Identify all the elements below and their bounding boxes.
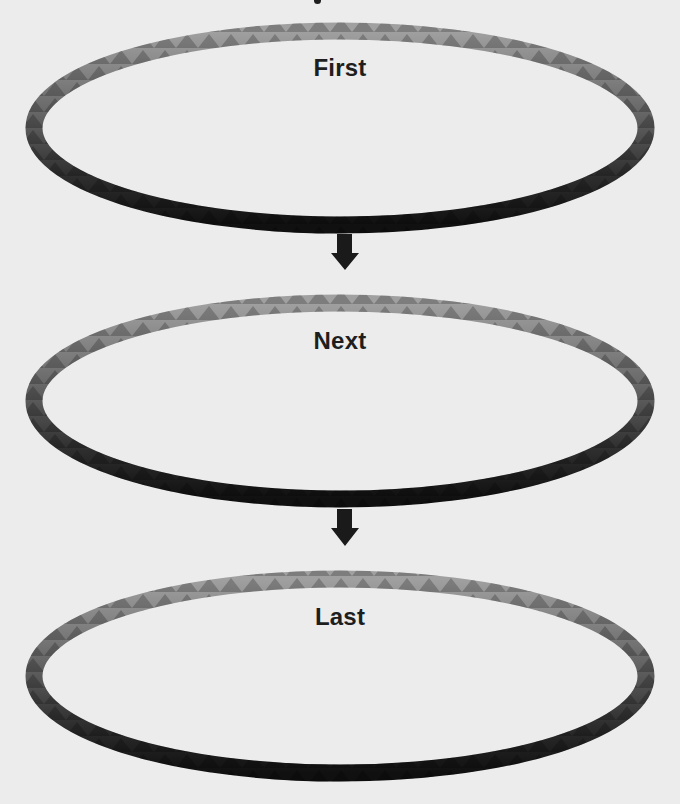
stage-label-first: First — [0, 56, 680, 80]
stage-label-last: Last — [0, 605, 680, 629]
stage-label-next: Next — [0, 329, 680, 353]
arrow-down-icon — [331, 509, 359, 546]
flow-diagram: First Next Last — [0, 0, 680, 804]
diagram-graphics — [0, 0, 680, 804]
arrow-down-icon — [331, 234, 359, 270]
